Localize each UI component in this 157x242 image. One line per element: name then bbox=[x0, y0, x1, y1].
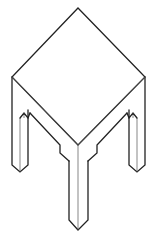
right-leg bbox=[127, 77, 145, 172]
left-leg bbox=[12, 77, 30, 172]
front-leg bbox=[69, 145, 88, 230]
table-top bbox=[12, 8, 145, 145]
apron bbox=[12, 77, 145, 161]
figure: Isometric line drawing of a square table… bbox=[0, 0, 157, 242]
table-drawing bbox=[0, 0, 157, 242]
